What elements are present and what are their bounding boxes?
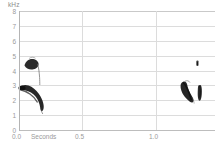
x-tick-labels: 0.0 0.5 1.0 Seconds	[0, 0, 217, 146]
spectrogram-figure: kHz	[0, 0, 217, 146]
x-tick-label-0_0: 0.0	[12, 133, 21, 141]
x-tick-label-1_0: 1.0	[149, 133, 158, 141]
x-axis-title: Seconds	[31, 133, 56, 141]
x-tick-label-0_5: 0.5	[75, 133, 84, 141]
